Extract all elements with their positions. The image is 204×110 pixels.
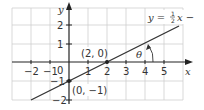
- point-0-neg1: [67, 79, 71, 83]
- x-tick-3: 3: [123, 66, 129, 77]
- equation-suffix: x −: [177, 12, 194, 23]
- equation-fraction-numerator: 1: [171, 10, 175, 17]
- angle-arrow-icon: [146, 44, 151, 50]
- equation-prefix: y =: [147, 12, 165, 23]
- origin-label: 0: [57, 65, 63, 76]
- point-label-2-0: (2, 0): [81, 48, 108, 59]
- x-tick-4: 4: [142, 66, 148, 77]
- coordinate-diagram: −2 −1 0 1 2 3 4 5 x 2 1 −1 −2 y (2, 0) (…: [0, 0, 204, 110]
- y-tick-neg1: −1: [50, 76, 65, 87]
- angle-theta-label: θ: [136, 49, 142, 60]
- y-tick-neg2: −2: [52, 95, 67, 106]
- x-axis-arrow-icon: [185, 59, 193, 65]
- point-label-0-neg1: (0, −1): [72, 85, 107, 96]
- x-tick-neg2: −2: [24, 66, 39, 77]
- y-axis-label: y: [57, 4, 64, 15]
- x-tick-2: 2: [104, 66, 110, 77]
- x-tick-5: 5: [161, 66, 167, 77]
- point-2-0: [105, 60, 109, 64]
- y-tick-1: 1: [57, 39, 63, 50]
- equation-fraction-denominator: 2: [171, 17, 175, 24]
- y-axis-arrow-icon: [66, 2, 72, 10]
- x-axis-label: x: [185, 66, 191, 77]
- y-tick-2: 2: [57, 20, 63, 31]
